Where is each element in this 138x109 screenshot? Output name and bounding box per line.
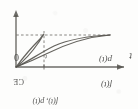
y-axis-arrowhead <box>13 10 19 17</box>
plot-vector-layer <box>0 0 138 109</box>
x-axis-group <box>16 64 124 70</box>
y-axis-label: f(t), p(t) <box>33 97 58 105</box>
curve-p-label: p(t) <box>99 55 112 64</box>
t-tick-label: t <box>45 53 47 60</box>
curve-f-label: f(t) <box>101 80 112 89</box>
x-axis-label: t <box>129 51 132 61</box>
origin-label: 0 <box>14 52 19 62</box>
x-axis-arrowhead <box>117 64 124 70</box>
ce-level-label: CE <box>13 77 24 85</box>
rotated-plot-container: t 0 t f(t) p(t) CE f(t), p(t) <box>0 0 138 109</box>
curve-p <box>16 35 110 67</box>
curve-f <box>16 35 110 67</box>
figure-canvas: t 0 t f(t) p(t) CE f(t), p(t) <box>0 0 138 109</box>
